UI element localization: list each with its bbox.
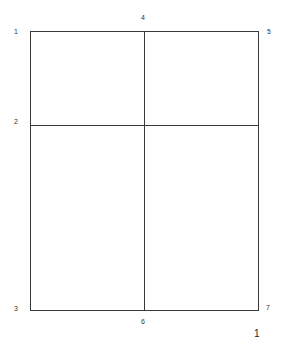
vertical-divider — [144, 31, 145, 311]
page-number: 1 — [254, 328, 260, 339]
label-1: 1 — [14, 28, 18, 35]
right-border — [258, 31, 259, 311]
left-border — [30, 31, 31, 311]
label-7: 7 — [266, 304, 270, 311]
label-5: 5 — [267, 28, 271, 35]
label-4: 4 — [141, 14, 145, 21]
label-6: 6 — [141, 318, 145, 325]
label-2: 2 — [14, 118, 18, 125]
horizontal-divider — [30, 125, 259, 126]
label-3: 3 — [14, 305, 18, 312]
